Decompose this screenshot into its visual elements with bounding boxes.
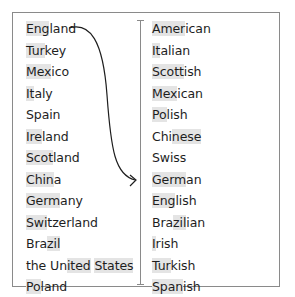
country-item: Scotland bbox=[26, 147, 133, 169]
word-part: Bra bbox=[152, 215, 173, 230]
word-part: tzerland bbox=[47, 215, 97, 230]
exercise-frame: EnglandTurkeyMexicoItalySpainIrelandScot… bbox=[12, 12, 280, 287]
highlighted-stem: Germ bbox=[26, 193, 60, 208]
nationality-item: Irish bbox=[152, 233, 211, 255]
country-item: Germany bbox=[26, 190, 133, 212]
nationality-item: Spanish bbox=[152, 276, 211, 297]
highlighted-stem: Scott bbox=[152, 64, 184, 79]
highlighted-stem: Mex bbox=[26, 64, 51, 79]
word-part: ish bbox=[183, 279, 201, 294]
nationality-item: English bbox=[152, 190, 211, 212]
word-part: land bbox=[49, 21, 76, 36]
highlighted-stem: Swi bbox=[26, 215, 47, 230]
highlighted-stem: Po bbox=[26, 279, 41, 294]
word-part: key bbox=[45, 43, 67, 58]
country-item: Brazil bbox=[26, 233, 133, 255]
nationality-item: Mexican bbox=[152, 83, 211, 105]
highlighted-stem: Amer bbox=[152, 21, 185, 36]
highlighted-stem: zil bbox=[173, 215, 186, 230]
word-part: land bbox=[53, 150, 80, 165]
word-part: lish bbox=[175, 193, 196, 208]
word-part: ican bbox=[177, 86, 203, 101]
highlighted-stem: Eng bbox=[26, 21, 49, 36]
word-part: the Un bbox=[26, 258, 67, 273]
country-item: Turkey bbox=[26, 40, 133, 62]
column-divider bbox=[140, 20, 141, 285]
word-part: land bbox=[42, 129, 69, 144]
nationality-item: Polish bbox=[152, 104, 211, 126]
highlighted-stem: Scot bbox=[26, 150, 53, 165]
word-part: ican bbox=[185, 21, 211, 36]
nationality-item: Swiss bbox=[152, 147, 211, 169]
nationality-item: Chinese bbox=[152, 126, 211, 148]
word-part: lish bbox=[167, 107, 188, 122]
country-item: Ireland bbox=[26, 126, 133, 148]
nationality-item: Brazilian bbox=[152, 212, 211, 234]
word-part: rish bbox=[156, 236, 179, 251]
highlighted-stem: Tur bbox=[26, 43, 45, 58]
highlighted-stem: Po bbox=[152, 107, 167, 122]
word-part: any bbox=[60, 193, 83, 208]
word-part: a bbox=[54, 172, 62, 187]
highlighted-stem: Tur bbox=[152, 258, 171, 273]
divider-bottom-cap bbox=[137, 284, 144, 285]
country-item: Italy bbox=[26, 83, 133, 105]
highlighted-stem: Ire bbox=[26, 129, 42, 144]
word-part: ish bbox=[184, 64, 202, 79]
country-item: the United States bbox=[26, 255, 133, 277]
divider-top-cap bbox=[137, 20, 144, 21]
word-part: an bbox=[186, 172, 201, 187]
countries-column: EnglandTurkeyMexicoItalySpainIrelandScot… bbox=[26, 18, 133, 297]
nationality-item: Italian bbox=[152, 40, 211, 62]
word-part: aly bbox=[34, 86, 52, 101]
highlighted-stem: Eng bbox=[152, 193, 175, 208]
word-part: Chi bbox=[152, 129, 172, 144]
nationality-item: American bbox=[152, 18, 211, 40]
word-part: Bra bbox=[26, 236, 47, 251]
highlighted-stem: Germ bbox=[152, 172, 186, 187]
country-item: Mexico bbox=[26, 61, 133, 83]
highlighted-stem: Mex bbox=[152, 86, 177, 101]
word-part: alian bbox=[160, 43, 190, 58]
word-part: ian bbox=[186, 215, 205, 230]
word-part: ico bbox=[51, 64, 69, 79]
country-item: Spain bbox=[26, 104, 133, 126]
highlighted-stem: zil bbox=[47, 236, 60, 251]
highlighted-stem: nese bbox=[172, 129, 201, 144]
country-item: England bbox=[26, 18, 133, 40]
nationality-item: German bbox=[152, 169, 211, 191]
country-item: China bbox=[26, 169, 133, 191]
highlighted-stem: ited bbox=[67, 258, 91, 273]
highlighted-stem: Chin bbox=[26, 172, 54, 187]
country-item: Poland bbox=[26, 276, 133, 297]
word-part: kish bbox=[171, 258, 196, 273]
nationality-item: Scottish bbox=[152, 61, 211, 83]
highlighted-stem: States bbox=[94, 258, 133, 273]
nationalities-column: AmericanItalianScottishMexicanPolishChin… bbox=[152, 18, 211, 297]
nationality-item: Turkish bbox=[152, 255, 211, 277]
word-part: Spain bbox=[26, 107, 60, 122]
highlighted-stem: Span bbox=[152, 279, 183, 294]
word-part: Swiss bbox=[152, 150, 186, 165]
country-item: Switzerland bbox=[26, 212, 133, 234]
word-part: land bbox=[41, 279, 68, 294]
